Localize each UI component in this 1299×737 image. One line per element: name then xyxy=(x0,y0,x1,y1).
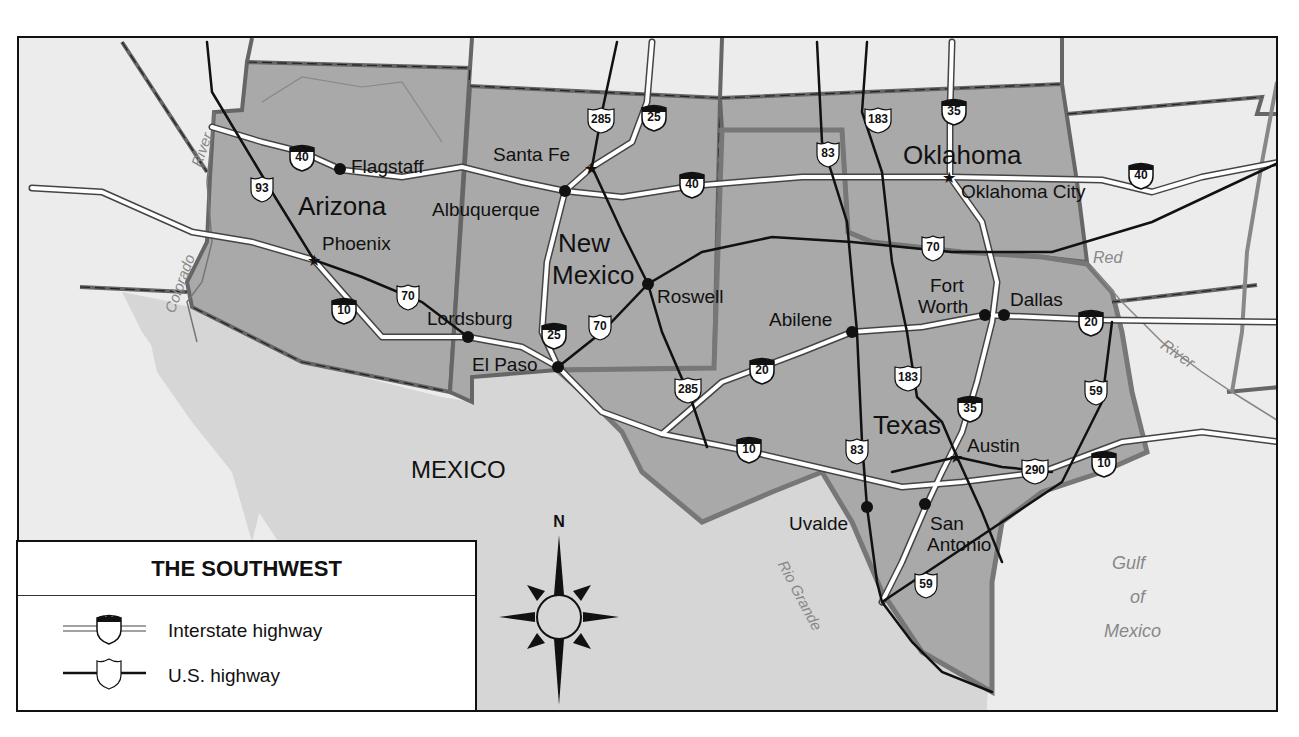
interstate-shield-10-west-tx: 10 xyxy=(735,436,763,464)
svg-text:★: ★ xyxy=(584,160,598,177)
city-abilene: Abilene xyxy=(769,310,832,329)
state-label-new-mexico-1: New xyxy=(558,230,610,256)
svg-text:N: N xyxy=(553,513,565,530)
city-albuquerque: Albuquerque xyxy=(432,200,540,219)
us-shield-285-south: 285 xyxy=(673,376,703,404)
us-shield-70-ok: 70 xyxy=(919,234,947,262)
state-label-arizona: Arizona xyxy=(298,193,386,219)
interstate-shield-40-az: 40 xyxy=(288,144,316,172)
svg-text:★: ★ xyxy=(307,252,321,269)
interstate-shield-20-east: 20 xyxy=(1077,309,1105,337)
city-austin: Austin xyxy=(967,436,1020,455)
us-shield-59-north: 59 xyxy=(1082,378,1110,406)
city-roswell: Roswell xyxy=(657,287,724,306)
us-shield-70-nm: 70 xyxy=(586,313,614,341)
city-uvalde: Uvalde xyxy=(789,514,848,533)
interstate-shield-40-east: 40 xyxy=(1127,162,1155,190)
state-label-new-mexico-2: Mexico xyxy=(552,262,634,288)
us-shield-70-az: 70 xyxy=(394,283,422,311)
svg-text:★: ★ xyxy=(942,169,956,186)
interstate-shield-25-north: 25 xyxy=(640,104,668,132)
us-shield-59-south: 59 xyxy=(912,571,940,599)
country-label-mexico: MEXICO xyxy=(411,458,506,482)
legend-item-us-highway: U.S. highway xyxy=(46,655,146,695)
us-shield-83-south: 83 xyxy=(843,437,871,465)
city-santa-fe: Santa Fe xyxy=(493,145,570,164)
us-shield-285-north: 285 xyxy=(586,106,616,134)
us-shield-290: 290 xyxy=(1020,457,1050,485)
us-shield-183-south: 183 xyxy=(893,364,923,392)
legend-label-us-highway: U.S. highway xyxy=(168,665,280,687)
interstate-shield-35-tx: 35 xyxy=(956,395,984,423)
us-shield-183-north: 183 xyxy=(863,106,893,134)
interstate-shield-40-nm: 40 xyxy=(678,171,706,199)
legend-title: THE SOUTHWEST xyxy=(18,556,475,582)
city-fort-worth-2: Worth xyxy=(918,297,968,316)
map-legend: THE SOUTHWEST Interstate highway U.S. hi… xyxy=(16,540,477,712)
interstate-shield-35-ok: 35 xyxy=(940,98,968,126)
interstate-shield-10-az: 10 xyxy=(330,297,358,325)
city-fort-worth-1: Fort xyxy=(930,276,964,295)
water-label-red: Red xyxy=(1093,250,1122,266)
us-shield-83-north: 83 xyxy=(814,140,842,168)
state-label-texas: Texas xyxy=(873,412,941,438)
city-oklahoma-city: Oklahoma City xyxy=(961,182,1086,201)
svg-text:★: ★ xyxy=(949,449,963,466)
city-san-antonio-2: Antonio xyxy=(927,535,991,554)
compass-icon: N xyxy=(497,507,621,707)
compass-rose: N xyxy=(497,507,621,707)
interstate-shield-25-south: 25 xyxy=(540,322,568,350)
state-label-oklahoma: Oklahoma xyxy=(903,142,1022,168)
water-label-gulf-2: of xyxy=(1130,588,1145,606)
city-lordsburg: Lordsburg xyxy=(427,309,513,328)
water-label-gulf-3: Mexico xyxy=(1104,622,1161,640)
city-phoenix: Phoenix xyxy=(322,234,391,253)
interstate-shield-20-west: 20 xyxy=(748,357,776,385)
legend-item-interstate: Interstate highway xyxy=(46,610,146,650)
legend-divider xyxy=(18,595,475,596)
interstate-highway-icon xyxy=(46,610,146,650)
city-flagstaff: Flagstaff xyxy=(351,157,424,176)
city-el-paso: El Paso xyxy=(472,355,537,374)
legend-label-interstate: Interstate highway xyxy=(168,620,322,642)
us-shield-93: 93 xyxy=(248,175,276,203)
us-highway-icon xyxy=(46,655,146,695)
city-san-antonio-1: San xyxy=(930,514,964,533)
city-dallas: Dallas xyxy=(1010,290,1063,309)
interstate-shield-10-east-tx: 10 xyxy=(1090,450,1118,478)
water-label-gulf-1: Gulf xyxy=(1112,554,1145,572)
